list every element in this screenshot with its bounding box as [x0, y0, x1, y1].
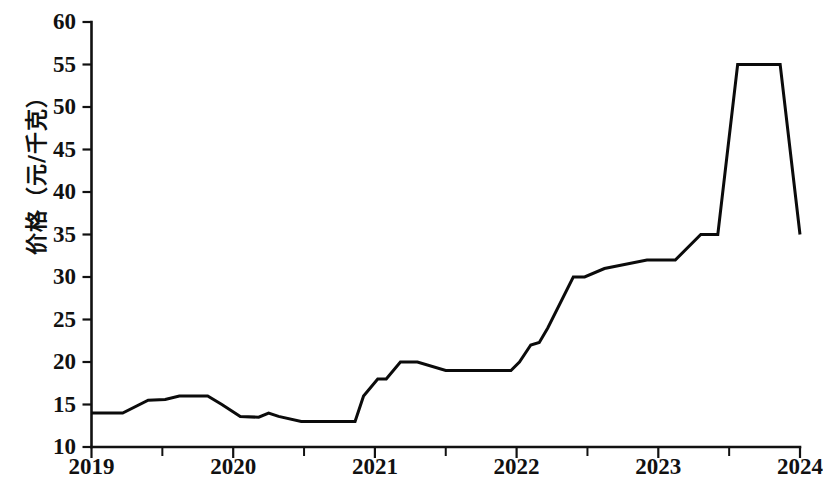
y-axis-ticks [83, 22, 92, 447]
x-axis-ticks [92, 447, 801, 458]
x-tick-label: 2019 [69, 455, 115, 478]
y-tick-label: 20 [30, 350, 76, 373]
data-series-group [92, 65, 801, 422]
axes-group [83, 22, 801, 458]
x-tick-label: 2023 [635, 455, 681, 478]
x-tick-label: 2022 [494, 455, 540, 478]
x-tick-label: 2021 [352, 455, 398, 478]
price-series-line [92, 65, 801, 422]
y-tick-label: 15 [30, 393, 76, 416]
x-tick-label: 2020 [210, 455, 256, 478]
y-axis-title: 价格（元/千克） [18, 20, 50, 320]
x-tick-label: 2024 [777, 455, 823, 478]
